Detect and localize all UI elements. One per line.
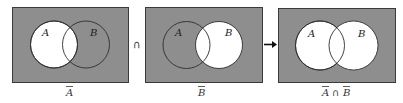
svg-text:∩: ∩ — [332, 87, 339, 98]
svg-text:A: A — [321, 87, 329, 98]
caption-complement-a: A — [65, 87, 73, 98]
set-label-a: A — [174, 27, 182, 38]
set-label-b: B — [224, 27, 232, 38]
circle-b — [196, 22, 243, 69]
set-label-b: B — [357, 28, 365, 39]
set-label-a: A — [41, 27, 49, 38]
set-label-b: B — [89, 27, 97, 38]
panel-complement-a-intersect-complement-b: A B A ∩ B — [279, 9, 396, 99]
caption-complement-b: B — [197, 87, 205, 98]
intersection-operator: ∩ — [133, 38, 141, 51]
circle-b — [329, 21, 378, 70]
svg-text:B: B — [342, 87, 350, 98]
arrow-icon — [264, 41, 277, 48]
venn-diagram-figure: A B A ∩ A B B A B A ∩ B — [0, 0, 403, 103]
panel-complement-b: A B B — [146, 8, 263, 99]
set-label-a: A — [307, 28, 315, 39]
panel-complement-a: A B A — [13, 8, 129, 99]
caption-complement-a-intersect-complement-b: A ∩ B — [321, 87, 350, 99]
